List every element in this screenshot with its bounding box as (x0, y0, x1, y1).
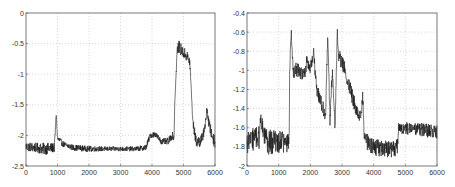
x-tick-label: 6000 (207, 169, 223, 176)
x-tick-label: 6000 (429, 169, 445, 176)
x-tick-label: 2000 (81, 169, 97, 176)
y-tick-label: -1.4 (233, 105, 245, 112)
x-tick-label: 0 (245, 169, 249, 176)
x-tick-label: 1000 (271, 169, 287, 176)
y-tick-label: -1.2 (233, 86, 245, 93)
x-tick-label: 2000 (303, 169, 319, 176)
y-tick-label: 0 (20, 10, 24, 17)
y-tick-label: -2.5 (12, 163, 24, 170)
y-tick-label: -2 (239, 163, 245, 170)
chart-left: 01000200030004000500060000-0.5-1-1.5-2-2… (0, 0, 228, 187)
y-tick-label: -1 (239, 67, 245, 74)
chart-right: 0100020003000400050006000-0.4-0.6-0.8-1-… (228, 0, 455, 187)
x-tick-label: 0 (24, 169, 28, 176)
y-tick-label: -2 (18, 132, 24, 139)
y-tick-label: -0.6 (233, 29, 245, 36)
chart-right-plot: 0100020003000400050006000-0.4-0.6-0.8-1-… (228, 0, 455, 187)
x-tick-label: 4000 (144, 169, 160, 176)
x-tick-label: 5000 (398, 169, 414, 176)
y-tick-label: -0.4 (233, 10, 245, 17)
x-tick-label: 1000 (50, 169, 66, 176)
y-tick-label: -1.6 (233, 124, 245, 131)
x-tick-label: 4000 (366, 169, 382, 176)
x-tick-label: 3000 (113, 169, 129, 176)
y-tick-label: -0.8 (233, 48, 245, 55)
x-tick-label: 3000 (334, 169, 350, 176)
y-tick-label: -1.5 (12, 101, 24, 108)
axis-ticks: 0100020003000400050006000-0.4-0.6-0.8-1-… (233, 10, 445, 177)
y-tick-label: -1.8 (233, 143, 245, 150)
y-tick-label: -0.5 (12, 40, 24, 47)
y-tick-label: -1 (18, 71, 24, 78)
data-series-line (247, 29, 437, 157)
x-tick-label: 5000 (176, 169, 192, 176)
chart-left-plot: 01000200030004000500060000-0.5-1-1.5-2-2… (0, 0, 228, 187)
